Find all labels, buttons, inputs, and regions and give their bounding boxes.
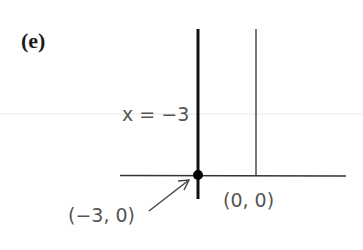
origin-label: (0, 0) (223, 189, 274, 211)
arrow-icon (149, 180, 189, 211)
point-label: (−3, 0) (68, 204, 135, 226)
panel-label: (e) (21, 28, 45, 53)
x-axis (120, 176, 346, 177)
coordinate-diagram: (e) x = −3 (0, 0) (−3, 0) (0, 0, 363, 250)
point-minus-3-0 (193, 170, 203, 180)
equation-label: x = −3 (122, 103, 189, 125)
